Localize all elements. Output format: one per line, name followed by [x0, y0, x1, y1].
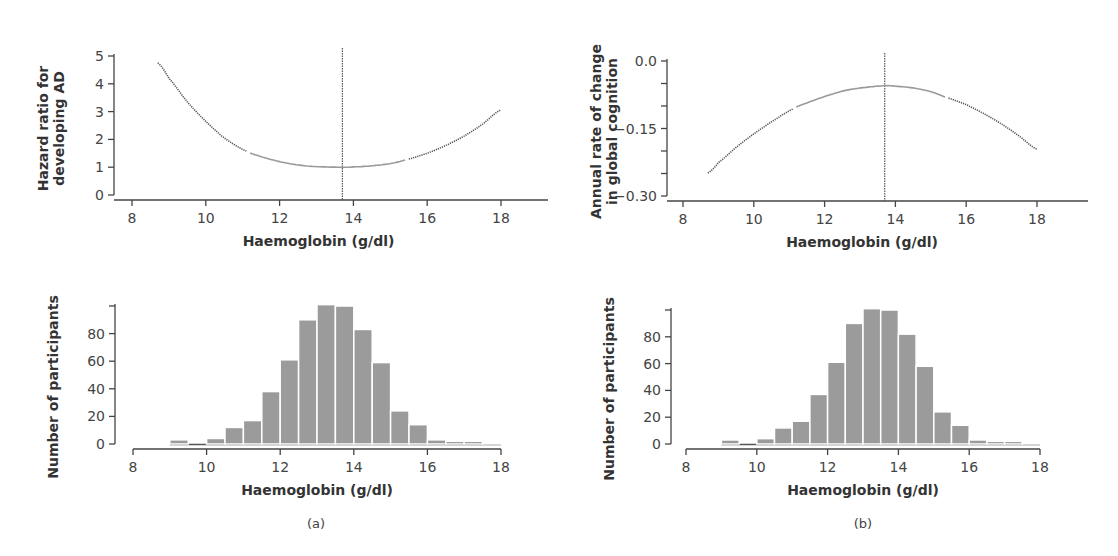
x-tick-label: 16	[418, 459, 436, 475]
y-tick-label: 20	[643, 409, 661, 425]
y-tick-label: 60	[87, 353, 105, 369]
curve-dotted-segment	[158, 63, 247, 151]
participants-histogram-a: 02040608081012141618Haemoglobin (g/dl)Nu…	[45, 295, 510, 498]
figure: 01234581012141618Haemoglobin (g/dl)Hazar…	[0, 0, 1118, 556]
y-tick-label: 40	[643, 382, 661, 398]
x-tick-label: 14	[344, 210, 362, 226]
y-tick-label: 0.0	[635, 53, 657, 69]
x-tick-label: 14	[886, 211, 904, 227]
histogram-bar	[721, 440, 739, 444]
y-axis-title: Annual rate of changein global cognition	[588, 44, 620, 219]
histogram-bar	[828, 362, 846, 444]
histogram-bar	[987, 441, 1005, 444]
histogram-bar	[792, 421, 810, 444]
histogram-bar	[409, 425, 427, 444]
histogram-bar	[483, 443, 501, 444]
histogram-bar	[757, 439, 775, 444]
x-tick-label: 16	[957, 211, 975, 227]
x-tick-label: 8	[129, 459, 138, 475]
y-tick-label: 5	[95, 48, 104, 64]
histogram-bar	[354, 329, 372, 444]
y-tick-label: 40	[87, 381, 105, 397]
participants-histogram-b: 02040608081012141618Haemoglobin (g/dl)Nu…	[601, 297, 1049, 498]
x-axis-title: Haemoglobin (g/dl)	[241, 482, 393, 498]
histogram-bar	[243, 421, 261, 444]
x-tick-label: 10	[197, 210, 215, 226]
hazard-ratio-chart: 01234581012141618Haemoglobin (g/dl)Hazar…	[35, 48, 548, 249]
histogram-bar	[427, 440, 445, 444]
histogram-bar	[262, 392, 280, 444]
y-axis-title: Hazard ratio fordeveloping AD	[35, 66, 67, 192]
histogram-bar	[898, 334, 916, 444]
histogram-bar	[1022, 443, 1040, 444]
y-tick-label: 2	[95, 131, 104, 147]
y-tick-label: 60	[643, 356, 661, 372]
y-axis-title: Number of participants	[45, 295, 61, 479]
histogram-bar	[810, 394, 828, 444]
histogram-bar	[170, 440, 188, 444]
y-tick-label: 1	[95, 159, 104, 175]
curve-dotted-segment	[949, 98, 1038, 149]
x-tick-label: 12	[271, 210, 289, 226]
x-tick-label: 14	[889, 459, 907, 475]
x-tick-label: 12	[816, 211, 834, 227]
curve-solid-segment	[250, 153, 405, 167]
x-tick-label: 12	[271, 459, 289, 475]
y-tick-label: 3	[95, 104, 104, 120]
x-tick-label: 16	[418, 210, 436, 226]
x-tick-label: 8	[128, 210, 137, 226]
x-tick-label: 10	[748, 459, 766, 475]
histogram-bar	[845, 323, 863, 444]
y-tick-label: −0.15	[614, 121, 657, 137]
x-tick-label: 18	[492, 210, 510, 226]
y-tick-label: 0	[96, 436, 105, 452]
x-axis-title: Haemoglobin (g/dl)	[786, 234, 938, 250]
y-tick-label: 80	[87, 326, 105, 342]
curve-solid-segment	[796, 86, 945, 108]
x-tick-label: 18	[492, 459, 510, 475]
panel-label-b: (b)	[854, 516, 872, 531]
histogram-bar	[391, 411, 409, 444]
curve-dotted-segment	[708, 109, 793, 173]
histogram-bar	[317, 305, 335, 444]
histogram-bar	[464, 441, 482, 444]
histogram-bar	[299, 320, 317, 444]
y-tick-label: 0	[652, 436, 661, 452]
y-tick-label: 4	[95, 76, 104, 92]
histogram-bar	[775, 428, 793, 444]
cognition-rate-chart: −0.30−0.150.081012141618Haemoglobin (g/d…	[588, 44, 1088, 250]
curve-dotted-segment	[409, 110, 501, 159]
histogram-bar	[863, 309, 881, 444]
x-tick-label: 8	[679, 211, 688, 227]
panel-label-a: (a)	[307, 516, 325, 531]
y-tick-label: 0	[95, 187, 104, 203]
histogram-bar	[446, 441, 464, 444]
x-tick-label: 18	[1028, 211, 1046, 227]
x-axis-title: Haemoglobin (g/dl)	[787, 482, 939, 498]
x-tick-label: 18	[1031, 459, 1049, 475]
histogram-bar	[934, 412, 952, 444]
y-tick-label: 20	[87, 408, 105, 424]
histogram-bar	[969, 440, 987, 444]
histogram-bar	[225, 427, 243, 444]
x-tick-label: 12	[819, 459, 837, 475]
histogram-bar	[881, 310, 899, 444]
y-tick-label: −0.30	[614, 188, 657, 204]
x-tick-label: 14	[345, 459, 363, 475]
histogram-bar	[207, 438, 225, 444]
y-axis-title: Number of participants	[601, 297, 617, 481]
histogram-bar	[372, 363, 390, 444]
x-axis-title: Haemoglobin (g/dl)	[243, 233, 395, 249]
y-tick-label: 80	[643, 329, 661, 345]
histogram-bar	[1005, 441, 1023, 444]
histogram-bar	[952, 425, 970, 444]
x-tick-label: 8	[682, 459, 691, 475]
histogram-bar	[916, 366, 934, 444]
histogram-bar	[335, 306, 353, 444]
x-tick-label: 16	[960, 459, 978, 475]
x-tick-label: 10	[745, 211, 763, 227]
histogram-bar	[280, 360, 298, 444]
x-tick-label: 10	[198, 459, 216, 475]
